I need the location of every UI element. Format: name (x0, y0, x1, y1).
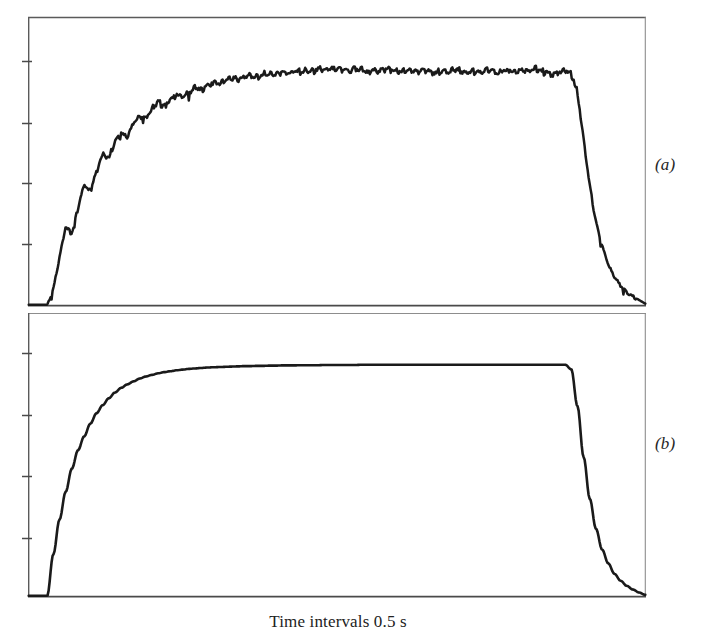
panel-a-data-trace (29, 66, 646, 305)
figure-root: (a) (b) Time intervals 0.5 s (0, 0, 708, 642)
panel-b-y-ticks (22, 354, 32, 539)
panel-label-a: (a) (655, 155, 675, 175)
figure-plot-area (0, 0, 708, 642)
panel-a-axes (22, 17, 646, 306)
panel-b-axes (22, 313, 646, 597)
panel-label-b: (b) (655, 434, 675, 454)
panel-b-data-trace (29, 365, 646, 596)
panel-a-y-ticks (22, 62, 32, 245)
x-axis-caption: Time intervals 0.5 s (0, 612, 676, 632)
